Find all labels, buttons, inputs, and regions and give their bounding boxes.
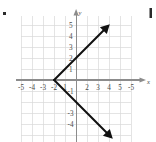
left-edge-artifact bbox=[3, 12, 6, 15]
x-tick-label: -3 bbox=[40, 84, 46, 92]
y-tick-label: 5 bbox=[69, 22, 73, 30]
y-tick-label: 3 bbox=[69, 44, 73, 52]
x-tick-label: -5 bbox=[18, 84, 24, 92]
y-axis-label: y bbox=[78, 9, 82, 16]
x-tick-label: -5 bbox=[128, 84, 134, 92]
x-tick-label: 3 bbox=[96, 84, 100, 92]
graph-canvas: x y -5 -4 -3 -2 1 2 3 4 5 -5 5 4 3 2 1 -… bbox=[0, 0, 156, 142]
x-tick-label: -2 bbox=[51, 84, 57, 92]
y-tick-label: 4 bbox=[69, 33, 73, 41]
y-tick-label: -4 bbox=[68, 121, 74, 129]
x-axis bbox=[16, 77, 146, 82]
right-edge-artifact bbox=[150, 8, 153, 18]
x-axis-arrowhead bbox=[140, 77, 147, 82]
x-tick-label: 5 bbox=[118, 84, 122, 92]
x-negative-tick-labels: -5 -4 -3 -2 bbox=[18, 84, 57, 92]
series-lower-ray bbox=[54, 80, 113, 139]
x-tick-label: 2 bbox=[85, 84, 89, 92]
series-upper-ray bbox=[54, 24, 110, 80]
y-tick-label: -3 bbox=[68, 110, 74, 118]
x-tick-label: 4 bbox=[107, 84, 111, 92]
coordinate-plot: x y -5 -4 -3 -2 1 2 3 4 5 -5 5 4 3 2 1 -… bbox=[0, 0, 156, 142]
x-tick-label: -4 bbox=[29, 84, 35, 92]
y-tick-label: 1 bbox=[69, 66, 73, 74]
x-positive-tick-labels: 1 2 3 4 5 -5 bbox=[63, 84, 134, 92]
x-axis-label: x bbox=[146, 78, 150, 85]
y-axis bbox=[74, 9, 79, 142]
